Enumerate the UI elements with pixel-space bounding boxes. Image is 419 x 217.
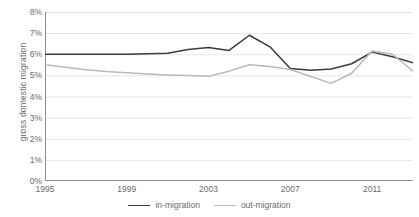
migration-line-chart: gross domestic migration 0%1%2%3%4%5%6%7… xyxy=(0,0,419,217)
x-tick-label: 1995 xyxy=(36,184,55,194)
x-tick-label: 2007 xyxy=(281,184,300,194)
series-line-in-migration xyxy=(45,35,413,70)
x-axis-tick-labels: 19951999200320072011 xyxy=(0,184,419,198)
y-tick-label: 2% xyxy=(20,134,42,144)
legend-item-out-migration[interactable]: out-migration xyxy=(214,200,291,210)
legend-item-in-migration[interactable]: in-migration xyxy=(128,200,199,210)
y-tick-label: 3% xyxy=(20,113,42,123)
y-tick-label: 6% xyxy=(20,49,42,59)
plot-area xyxy=(45,12,413,181)
legend-label: out-migration xyxy=(241,200,291,210)
x-tick-label: 2003 xyxy=(199,184,218,194)
plot-svg xyxy=(45,12,413,181)
legend-swatch-icon xyxy=(128,205,150,206)
x-tick-label: 2011 xyxy=(363,184,381,194)
y-axis-tick-labels: 0%1%2%3%4%5%6%7%8% xyxy=(18,12,42,181)
x-tick-label: 1999 xyxy=(117,184,136,194)
y-tick-label: 8% xyxy=(20,7,42,17)
legend-label: in-migration xyxy=(155,200,199,210)
y-tick-label: 1% xyxy=(20,155,42,165)
y-tick-label: 7% xyxy=(20,28,42,38)
y-tick-label: 5% xyxy=(20,70,42,80)
legend-swatch-icon xyxy=(214,205,236,206)
y-tick-label: 4% xyxy=(20,92,42,102)
series-line-out-migration xyxy=(45,51,413,83)
chart-legend: in-migrationout-migration xyxy=(0,200,419,210)
